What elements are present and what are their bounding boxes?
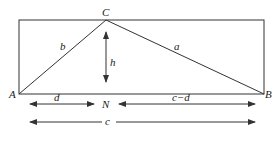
segment-label-c: c: [105, 115, 110, 127]
vertex-label-b: B: [265, 88, 272, 100]
side-label-b: b: [60, 40, 66, 52]
triangle-diagram: C A B N b a h d c−d c: [0, 0, 279, 143]
foot-label-n: N: [101, 98, 110, 110]
height-label-h: h: [110, 56, 116, 68]
segment-label-d: d: [54, 91, 60, 103]
side-label-a: a: [174, 40, 180, 52]
vertex-label-a: A: [8, 88, 16, 100]
side-b: [19, 20, 106, 94]
segment-label-c-minus-d: c−d: [172, 91, 190, 103]
bounding-rectangle: [19, 20, 264, 94]
side-a: [106, 20, 264, 94]
vertex-label-c: C: [102, 6, 110, 18]
